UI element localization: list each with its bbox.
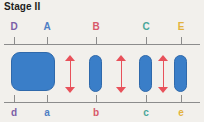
blob-d-a [11, 52, 55, 91]
top-label-A: A [39, 21, 55, 32]
arrow-a-b [65, 55, 76, 93]
blob-c [139, 55, 152, 92]
bottom-label-e: e [173, 107, 189, 118]
arrow-c-e [158, 55, 169, 93]
axis-tick [14, 95, 15, 103]
bottom-axis-line [4, 102, 200, 103]
top-label-C: C [138, 21, 154, 32]
axis-tick [146, 37, 147, 45]
bottom-label-c: c [138, 107, 154, 118]
top-axis-line [4, 44, 200, 45]
arrow-b-c [116, 55, 127, 93]
axis-tick [96, 95, 97, 103]
axis-tick [96, 37, 97, 45]
bottom-label-a: a [39, 107, 55, 118]
bottom-label-b: b [88, 107, 104, 118]
axis-tick [181, 37, 182, 45]
blob-b [89, 55, 102, 92]
arrow-shaft [163, 59, 164, 89]
top-label-E: E [173, 21, 189, 32]
figure-title: Stage II [4, 1, 40, 13]
arrow-head-down-icon [65, 87, 75, 93]
arrow-shaft [70, 59, 71, 89]
blob-e [174, 55, 187, 92]
axis-tick [47, 95, 48, 103]
axis-tick [47, 37, 48, 45]
stage-ii-figure: Stage II DABCE dabce [0, 0, 204, 122]
axis-tick [14, 37, 15, 45]
top-label-D: D [6, 21, 22, 32]
axis-tick [181, 95, 182, 103]
arrow-head-down-icon [116, 87, 126, 93]
top-label-B: B [88, 21, 104, 32]
arrow-head-down-icon [158, 87, 168, 93]
bottom-label-d: d [6, 107, 22, 118]
axis-tick [146, 95, 147, 103]
arrow-shaft [121, 59, 122, 89]
